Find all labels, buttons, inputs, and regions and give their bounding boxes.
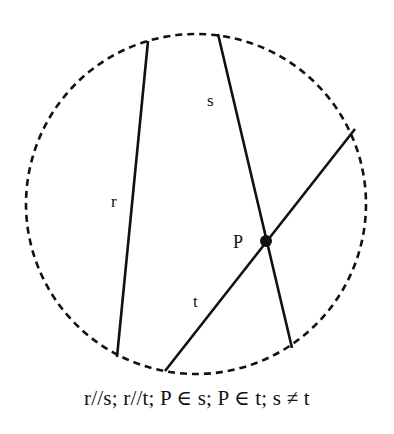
geometry-figure: r s t P r//s; r//t; P ∈ s; P ∈ t; s ≠ t: [0, 0, 394, 434]
point-p-marker: [260, 235, 272, 247]
line-label-r: r: [111, 192, 117, 211]
dashed-boundary-circle: [26, 34, 366, 374]
point-label-p: P: [233, 232, 243, 252]
line-label-t: t: [193, 292, 198, 311]
line-r: [117, 41, 148, 357]
diagram-canvas: r s t P: [0, 0, 394, 434]
line-s: [218, 34, 292, 348]
figure-caption: r//s; r//t; P ∈ s; P ∈ t; s ≠ t: [0, 386, 394, 411]
line-t: [165, 129, 355, 371]
line-label-s: s: [207, 91, 214, 110]
